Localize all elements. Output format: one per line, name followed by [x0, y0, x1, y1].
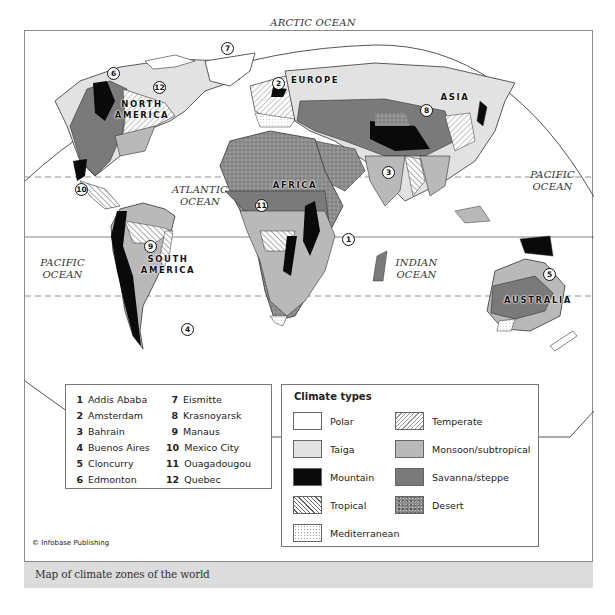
city-key-item: 11Ouagadougou — [166, 456, 251, 472]
legend-item-taiga: Taiga — [293, 439, 355, 459]
continent-label-australia: AUSTRALIA — [503, 295, 573, 306]
city-marker-10: 10 — [75, 183, 88, 196]
city-marker-1: 1 — [342, 233, 355, 246]
ocean-label-pacific-east: PACIFICOCEAN — [520, 169, 585, 193]
swatch-taiga-icon — [293, 440, 322, 458]
legend-item-savanna-steppe: Savanna/steppe — [395, 467, 509, 487]
city-key-item: 8Krasnoyarsk — [166, 408, 251, 424]
city-key-item: 12Quebec — [166, 472, 251, 488]
city-key-item: 4Buenos Aires — [71, 440, 150, 456]
city-marker-8: 8 — [420, 104, 433, 117]
legend-item-mediterranean: Mediterranean — [293, 523, 399, 543]
city-key-right-column: 7Eismitte 8Krasnoyarsk 9Manaus 10Mexico … — [166, 392, 251, 488]
swatch-savanna-icon — [395, 468, 424, 486]
continent-label-north-america: NORTHAMERICA — [107, 99, 177, 121]
city-key-item: 10Mexico City — [166, 440, 251, 456]
city-marker-11: 11 — [255, 199, 268, 212]
city-key-box: 1Addis Ababa 2Amsterdam 3Bahrain 4Buenos… — [65, 384, 272, 489]
city-key-item: 7Eismitte — [166, 392, 251, 408]
swatch-mediterranean-icon — [293, 524, 322, 542]
climate-legend-box: Climate types Polar Taiga Mountain Tropi… — [281, 384, 539, 547]
swatch-monsoon-icon — [395, 440, 424, 458]
publisher-credit: © Infobase Publishing — [32, 539, 109, 547]
continent-label-africa: AFRICA — [265, 180, 325, 191]
city-key-left-column: 1Addis Ababa 2Amsterdam 3Bahrain 4Buenos… — [71, 392, 150, 488]
legend-item-polar: Polar — [293, 411, 354, 431]
city-marker-9: 9 — [144, 240, 157, 253]
city-key-item: 5Cloncurry — [71, 456, 150, 472]
city-marker-6: 6 — [107, 67, 120, 80]
continent-label-europe: EUROPE — [291, 75, 351, 86]
city-marker-12: 12 — [153, 81, 166, 94]
city-marker-3: 3 — [382, 166, 395, 179]
city-key-item: 2Amsterdam — [71, 408, 150, 424]
ocean-label-pacific-west: PACIFICOCEAN — [30, 257, 95, 281]
swatch-polar-icon — [293, 412, 322, 430]
map-figure-frame: ARCTIC OCEAN ATLANTICOCEAN PACIFICOCEAN … — [24, 30, 593, 562]
ocean-label-atlantic: ATLANTICOCEAN — [165, 184, 235, 208]
legend-item-temperate: Temperate — [395, 411, 482, 431]
continent-label-south-america: SOUTHAMERICA — [133, 254, 203, 276]
swatch-tropical-icon — [293, 496, 322, 514]
swatch-temperate-icon — [395, 412, 424, 430]
swatch-mountain-icon — [293, 468, 322, 486]
city-marker-5: 5 — [543, 268, 556, 281]
city-marker-4: 4 — [181, 323, 194, 336]
city-key-item: 9Manaus — [166, 424, 251, 440]
city-key-item: 6Edmonton — [71, 472, 150, 488]
city-marker-2: 2 — [272, 77, 285, 90]
caption-bar: Map of climate zones of the world — [24, 562, 593, 588]
legend-title: Climate types — [294, 391, 372, 402]
legend-item-desert: Desert — [395, 495, 464, 515]
legend-item-monsoon-subtropical: Monsoon/subtropical — [395, 439, 530, 459]
legend-item-tropical: Tropical — [293, 495, 366, 515]
city-marker-7: 7 — [221, 42, 234, 55]
ocean-label-arctic: ARCTIC OCEAN — [263, 17, 363, 29]
figure-caption: Map of climate zones of the world — [35, 568, 210, 580]
swatch-desert-icon — [395, 496, 424, 514]
legend-item-mountain: Mountain — [293, 467, 374, 487]
continent-label-asia: ASIA — [435, 92, 475, 103]
ocean-label-indian: INDIANOCEAN — [384, 257, 449, 281]
city-key-item: 1Addis Ababa — [71, 392, 150, 408]
city-key-item: 3Bahrain — [71, 424, 150, 440]
